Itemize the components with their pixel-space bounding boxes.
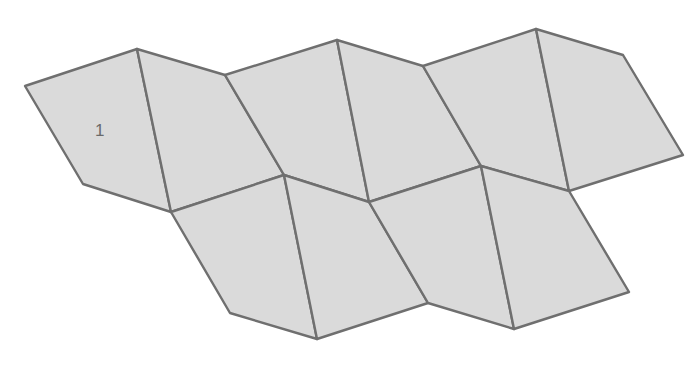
net-labels: 1 — [95, 121, 104, 140]
polyhedron-net: 1 — [0, 0, 700, 385]
face-number-label: 1 — [95, 121, 104, 140]
net-faces — [25, 29, 683, 339]
